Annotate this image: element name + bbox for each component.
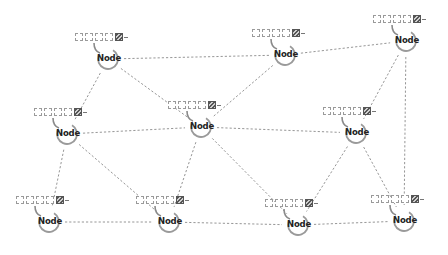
node-label: Node xyxy=(287,219,311,229)
node-label: Node xyxy=(274,49,298,59)
node-n9[interactable]: Node xyxy=(265,199,325,254)
node-n7[interactable]: Node xyxy=(16,196,76,251)
node-label: Node xyxy=(158,216,182,226)
node-n10[interactable]: Node xyxy=(371,195,431,250)
node-n2[interactable]: Node xyxy=(252,29,312,84)
edge-n5-n6 xyxy=(217,128,340,133)
node-n4[interactable]: Node xyxy=(34,108,94,163)
node-n6[interactable]: Node xyxy=(323,107,383,162)
node-label: Node xyxy=(190,121,214,131)
node-n8[interactable]: Node xyxy=(136,196,196,251)
node-label: Node xyxy=(345,127,369,137)
node-label: Node xyxy=(395,35,419,45)
node-label: Node xyxy=(56,128,80,138)
node-label: Node xyxy=(97,53,121,63)
node-n3[interactable]: Node xyxy=(373,15,433,70)
node-label: Node xyxy=(38,216,62,226)
edge-n1-n2 xyxy=(124,55,269,58)
node-label: Node xyxy=(393,215,417,225)
node-n5[interactable]: Node xyxy=(168,101,228,156)
node-n1[interactable]: Node xyxy=(75,33,135,88)
edge-n3-n10 xyxy=(404,57,406,205)
